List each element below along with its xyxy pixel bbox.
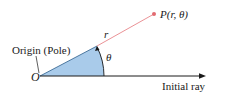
- point-label: P(r, θ): [160, 9, 188, 20]
- ray-arrow-icon: [199, 73, 206, 78]
- origin-symbol: O: [31, 71, 40, 83]
- initial-ray-label: Initial ray: [162, 81, 205, 92]
- angle-label: θ: [106, 52, 111, 63]
- origin-caption: Origin (Pole): [12, 45, 70, 56]
- radius-label: r: [104, 29, 108, 40]
- point-p: [152, 12, 156, 16]
